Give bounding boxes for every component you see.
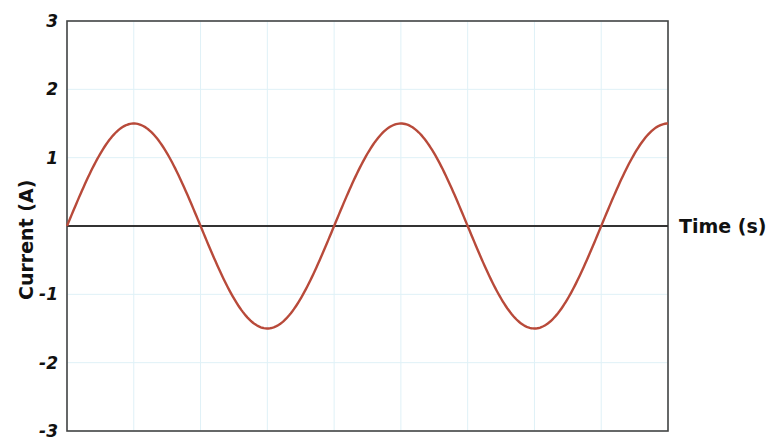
y-tick-label: -3 — [39, 421, 58, 441]
y-tick-label: -2 — [39, 353, 58, 373]
y-tick-label: -1 — [39, 284, 58, 304]
x-axis-label: Time (s) — [679, 215, 766, 237]
y-tick-label: 1 — [46, 148, 58, 168]
y-tick-label: 2 — [46, 79, 58, 99]
y-tick-labels: 321-1-2-3 — [39, 11, 58, 441]
y-tick-label: 3 — [46, 11, 58, 31]
y-axis-label: Current (A) — [15, 180, 37, 300]
current-vs-time-chart: 321-1-2-3 Time (s) Current (A) — [0, 0, 766, 448]
